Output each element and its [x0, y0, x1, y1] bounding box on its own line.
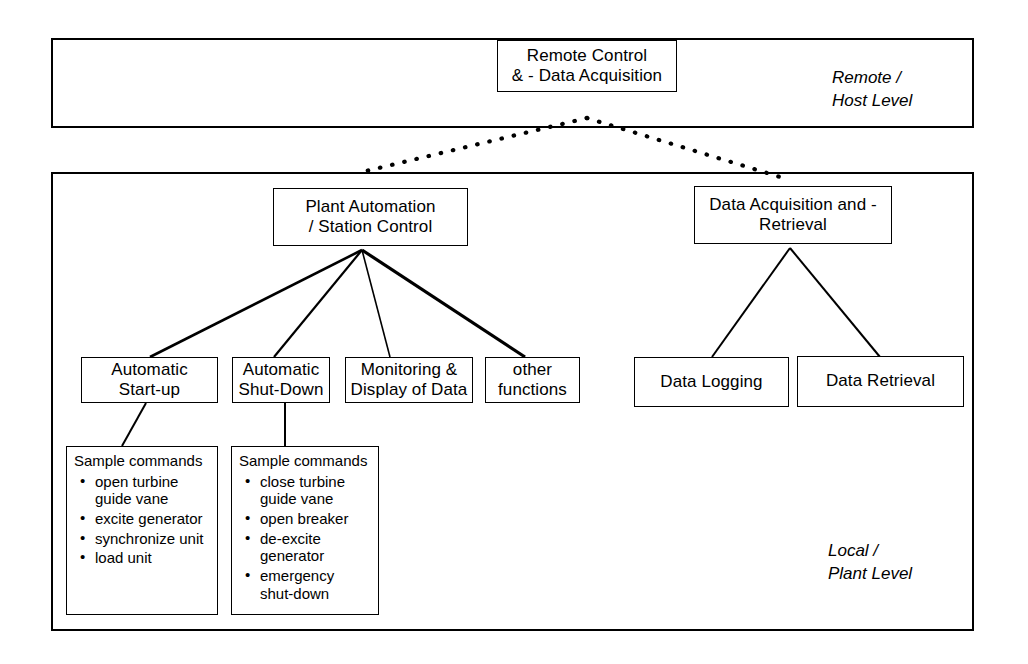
- node-data-logging-label: Data Logging: [656, 372, 766, 392]
- list-item: synchronize unit: [78, 530, 213, 548]
- list-item: emergency shut-down: [243, 567, 374, 602]
- node-monitoring-display-label: Monitoring & Display of Data: [347, 360, 472, 400]
- startup-commands-box: Sample commands open turbine guide vane …: [66, 446, 218, 615]
- node-remote-control-label: Remote Control & - Data Acquisition: [508, 46, 666, 86]
- shutdown-commands-title: Sample commands: [239, 453, 374, 470]
- list-item: de-excite generator: [243, 530, 374, 565]
- node-data-acquisition[interactable]: Data Acquisition and - Retrieval: [694, 186, 892, 244]
- shutdown-commands-list: close turbine guide vane open breaker de…: [239, 473, 374, 603]
- level-label-remote: Remote / Host Level: [832, 67, 912, 113]
- list-item: close turbine guide vane: [243, 473, 374, 508]
- level-label-local: Local / Plant Level: [828, 540, 912, 586]
- node-data-retrieval-label: Data Retrieval: [822, 371, 939, 391]
- list-item: excite generator: [78, 510, 213, 528]
- node-automatic-shutdown[interactable]: Automatic Shut-Down: [232, 357, 330, 403]
- node-data-logging[interactable]: Data Logging: [634, 357, 789, 407]
- list-item: load unit: [78, 549, 213, 567]
- diagram-canvas: Remote Control & - Data Acquisition Remo…: [0, 0, 1028, 664]
- node-remote-control[interactable]: Remote Control & - Data Acquisition: [497, 40, 677, 92]
- node-plant-automation-label: Plant Automation / Station Control: [301, 197, 439, 237]
- list-item: open turbine guide vane: [78, 473, 213, 508]
- node-plant-automation[interactable]: Plant Automation / Station Control: [273, 188, 468, 246]
- node-data-retrieval[interactable]: Data Retrieval: [797, 356, 964, 407]
- node-other-functions[interactable]: other functions: [485, 357, 580, 403]
- node-monitoring-display[interactable]: Monitoring & Display of Data: [345, 357, 473, 403]
- shutdown-commands-box: Sample commands close turbine guide vane…: [231, 446, 379, 615]
- node-data-acquisition-label: Data Acquisition and - Retrieval: [705, 195, 881, 235]
- node-automatic-shutdown-label: Automatic Shut-Down: [235, 360, 328, 400]
- node-automatic-startup-label: Automatic Start-up: [107, 360, 192, 400]
- startup-commands-list: open turbine guide vane excite generator…: [74, 473, 213, 567]
- list-item: open breaker: [243, 510, 374, 528]
- node-other-functions-label: other functions: [494, 360, 571, 400]
- node-automatic-startup[interactable]: Automatic Start-up: [81, 357, 218, 403]
- startup-commands-title: Sample commands: [74, 453, 213, 470]
